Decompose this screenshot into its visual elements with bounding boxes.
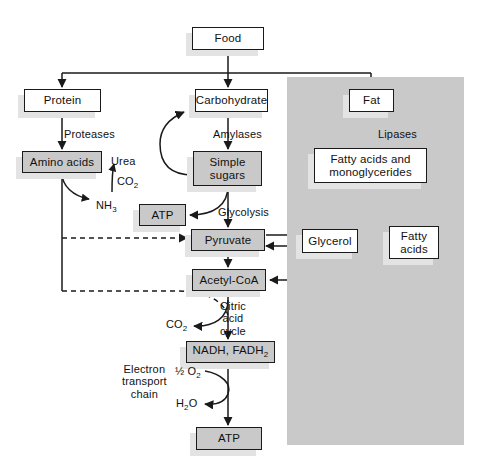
node-atp-final: ATP <box>196 427 262 450</box>
label-sub-co2-urea: 2 <box>134 181 139 190</box>
node-nadh-fadh2: NADH, FADH2 <box>186 341 275 363</box>
label-text-etc: Electrontransportchain <box>122 363 167 400</box>
node-label-food: Food <box>212 32 245 45</box>
node-fat: Fat <box>349 89 394 112</box>
label-co2-citric: CO2 <box>166 318 187 334</box>
label-text-h2o: H <box>176 397 184 409</box>
node-label-atp-final: ATP <box>215 432 243 445</box>
label-text-half-o2: ½ O <box>175 365 196 377</box>
node-label-sub-nadh-fadh2: 2 <box>264 350 269 359</box>
label-text-nh3: NH <box>96 199 112 211</box>
lipid-pathway-panel <box>287 77 464 445</box>
node-label-carbohydrate: Carbohydrate <box>193 94 270 107</box>
label-urea: Urea <box>111 155 135 167</box>
node-fatty-mono: Fatty acids andmonoglycerides <box>314 148 427 183</box>
label-text-amylases: Amylases <box>213 128 262 140</box>
node-label-acetyl-coa: Acetyl-CoA <box>196 274 261 287</box>
label-h2o: H2O <box>176 397 197 413</box>
node-label-nadh-fadh2: NADH, FADH2 <box>190 344 272 360</box>
node-label-amino-acids: Amino acids <box>27 156 97 169</box>
label-amylases: Amylases <box>213 128 262 140</box>
node-label-glycerol: Glycerol <box>305 235 354 248</box>
label-citric: Citricacidcycle <box>220 300 246 337</box>
metabolism-diagram: FoodProteinCarbohydrateFatAmino acidsSim… <box>0 0 481 466</box>
node-amino-acids: Amino acids <box>22 151 102 173</box>
label-sub-half-o2: 2 <box>196 371 201 380</box>
label-half-o2: ½ O2 <box>175 365 201 381</box>
node-label-fatty-mono: Fatty acids andmonoglycerides <box>326 153 415 179</box>
label-etc: Electrontransportchain <box>122 363 167 400</box>
node-acetyl-coa: Acetyl-CoA <box>192 269 266 291</box>
label-co2-urea: CO2 <box>117 175 138 191</box>
node-atp-glycolysis: ATP <box>139 204 186 226</box>
label-text-co2-urea: CO <box>117 175 134 187</box>
label-lipases: Lipases <box>378 128 417 140</box>
label-text-urea: Urea <box>111 155 135 167</box>
node-label-protein: Protein <box>41 94 85 107</box>
edge-o2-h2o <box>205 371 229 404</box>
label-text-co2-citric: CO <box>166 318 183 330</box>
label-text-lipases: Lipases <box>378 128 417 140</box>
label-glycolysis: Glycolysis <box>218 206 269 218</box>
label-proteases: Proteases <box>64 128 115 140</box>
node-simple-sugars: Simplesugars <box>193 151 262 186</box>
edge-nh3-urea <box>112 164 114 192</box>
node-label-fatty-acids: Fattyacids <box>397 230 431 256</box>
label-nh3: NH3 <box>96 199 117 215</box>
label-sub-co2-citric: 2 <box>183 324 188 333</box>
node-label-pyruvate: Pyruvate <box>202 234 255 247</box>
label-text-citric: Citricacidcycle <box>220 300 246 337</box>
label-sub-nh3: 3 <box>112 205 117 214</box>
label-text-proteases: Proteases <box>64 128 115 140</box>
node-carbohydrate: Carbohydrate <box>195 89 268 112</box>
label-text-glycolysis: Glycolysis <box>218 206 269 218</box>
node-protein: Protein <box>24 89 101 112</box>
label-text2-h2o: O <box>189 397 198 409</box>
node-food: Food <box>192 27 264 50</box>
node-pyruvate: Pyruvate <box>191 229 265 251</box>
node-label-atp-glycolysis: ATP <box>149 209 177 222</box>
node-fatty-acids: Fattyacids <box>389 226 439 259</box>
node-label-simple-sugars: Simplesugars <box>206 156 248 182</box>
node-glycerol: Glycerol <box>302 229 358 253</box>
node-label-fat: Fat <box>360 94 383 107</box>
